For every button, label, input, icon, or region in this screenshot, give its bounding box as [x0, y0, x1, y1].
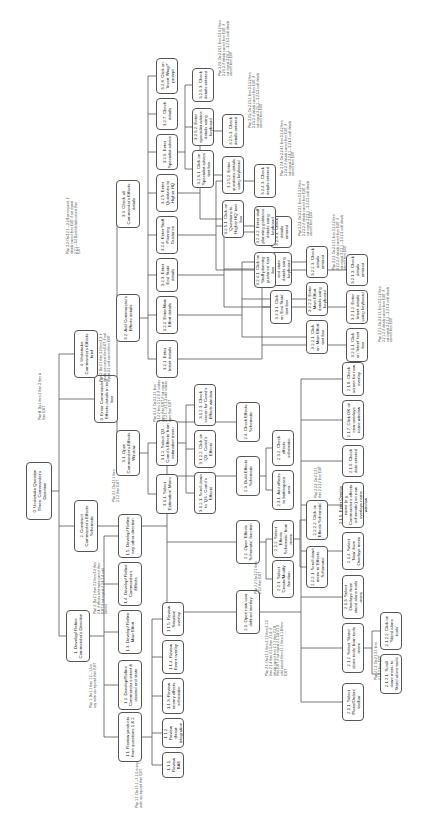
task-node-label: 1. Develop/ Refine Commander's Direction	[73, 612, 83, 660]
task-node-2-2-2-2: 2.2.2.2. Click on 'Effects Schematic'	[306, 500, 328, 540]
task-node-label: 1.1.4. Review Event overlay	[168, 642, 178, 672]
task-node-3-2-4: 3.2.4. Enter Staff Planning Guidance	[156, 216, 178, 254]
task-node-label: 3.2.5.3. Check details entered	[228, 116, 238, 146]
plan-annotation: Plan 2.1: Do 2.1.1 then 2.1.2 then 2.1.3…	[262, 620, 292, 676]
task-node-2-1-4: 2.1.4. Select 'New' from Overlays menu	[342, 532, 364, 570]
task-node-3-2-3-1: 3.2.3.1. Click on 'End State' text box	[270, 290, 292, 324]
task-node-label: 3.2.4.2. Enter staff planning guidance d…	[255, 208, 275, 244]
task-node-2-4: 2.4. Check Effects Schematic	[236, 402, 260, 442]
task-node-1-1-5: 1.1.5. Review Situation overlay	[162, 602, 184, 636]
task-node-label: 3.1.2. Select 'Q3 - Comd's Effects' from…	[160, 422, 175, 464]
plan-annotation: Plan 3.1.2: Do 3.1.2.1 then 3.1.2.2 then…	[152, 374, 174, 422]
task-node-3-2-4-3: 3.2.4.3. Check details entered	[254, 164, 276, 198]
task-node-label: 3.2.4. Enter Staff Planning Guidance	[160, 218, 175, 252]
task-node-3-2-1: 3.2.1. Enter Intent details	[156, 340, 178, 378]
task-node-2-3: 2.3. Build Effects Schematic	[236, 456, 260, 496]
task-node-3-2-3: 3.2.3. Enter End State details	[156, 258, 178, 292]
plan-annotation: Plan 2: Do 2.1 then 2.2 then 2.3 then 2.…	[92, 560, 112, 614]
task-node-label: 3.2.5.2. Enter questions details using k…	[226, 158, 241, 192]
task-node-label: 2.1.4. Select 'New' from Overlays menu	[346, 534, 361, 568]
task-node-label: 1.1.5. Review Situation overlay	[166, 604, 181, 634]
plan-annotation: Plan 3: Do 3.1 then 3.2 then 3.3; if det…	[96, 328, 116, 382]
task-node-3-1-2: 3.1.2. Select 'Q3 - Comd's Effects' from…	[156, 420, 178, 466]
task-node-label: 2.2.2.2. Click on 'Effects Schematic'	[312, 502, 322, 538]
task-node-label: 3.2.5. Enter Questions to Higher HQ	[160, 176, 175, 210]
task-node-1-3: 1.3. Develop/ Refine Main Effort	[118, 610, 142, 654]
task-node-3-1-2-2: 3.1.2.2. Click on 'Q3 - Comd's Effects'	[194, 430, 216, 468]
task-node-label: 3.2.2. Enter Main Effort details	[162, 298, 172, 332]
task-node-label: 1.5. Develop/ Refine any other direction	[125, 516, 135, 556]
task-node-label: 3.2.2.1. Click on 'Main Effort' text box	[310, 322, 325, 352]
task-node-1-1: 1.1. Review products from questions 1 & …	[118, 712, 142, 762]
task-node-1: 1. Develop/ Refine Commander's Direction	[66, 610, 90, 662]
task-node-2-2-2-1: 2.2.2.1. Scroll down menu to 'Effects Sc…	[306, 546, 328, 588]
task-node-4: 4. Undertake Commander's Effects brief	[74, 330, 98, 378]
task-node-3-2-2-1: 3.2.2.1. Click on 'Main Effort' text box	[306, 320, 328, 354]
task-node-2: 2. Construct Commander's Effects Schemat…	[74, 500, 98, 552]
task-node-label: 2.1.5. Enter Overlay name (e.g. Commande…	[338, 484, 368, 526]
task-node-1-4: 1.4. Develop/ Refine Commander's Effects	[118, 562, 142, 606]
task-node-label: 1.3. Develop/ Refine Main Effort	[125, 612, 135, 652]
task-node-3: 3. Enter Commander's Effects details in …	[94, 375, 118, 423]
task-node-3-2-1-2: 3.2.1.2. Enter Intent details using keyb…	[346, 290, 368, 324]
task-node-label: 2.1. Open new user defined overlay	[243, 592, 253, 632]
task-node-3-2-5-3: 3.2.5.3. Check details entered	[222, 114, 244, 148]
hta-diagram: 0. Undertake Question Three: Commander's…	[0, 0, 443, 814]
task-node-label: 3.2.8. Click on 'Insert Wrap?' prompt	[160, 60, 175, 92]
task-node-label: 2. Construct Commander's Effects Schemat…	[79, 502, 94, 550]
task-node-3-2-6-1: 3.2.6.1. Click on 'Specialist advice' te…	[192, 150, 214, 188]
task-node-2-1-3: 2.1.3. Select 'Overlays' from stand alon…	[342, 575, 364, 619]
task-node-label: 4. Undertake Commander's Effects brief	[79, 332, 94, 376]
task-node-3-2-1-1: 3.2.1.1. Click on 'Intent' text box	[346, 328, 368, 362]
task-node-2-2-1: 2.2.1. Select 'Create/Modify' function	[272, 560, 294, 598]
task-node-label: 3.2.3.1. Click on 'End State' text box	[274, 292, 289, 322]
plan-annotation: Plan 3.2.5: Do 3.2.5.1 then 3.2.5.2 then…	[246, 72, 268, 128]
task-node-3-3: 3.3. Check all Commander's Effects detai…	[116, 180, 140, 228]
plan-annotation: Plan 1.1: Do 1.1.1 – 1.1.5 in any order …	[132, 760, 148, 808]
plan-annotation: Plan 3.2.2: Do 3.2.2.1 then 3.2.2.2 then…	[330, 214, 352, 270]
task-node-label: 3.2.4.1. Click on 'Staff planning guidan…	[255, 254, 275, 286]
plan-annotation: Plan 0: Do 1 then 2 then 3 then 4 then E…	[36, 370, 50, 420]
task-node-label: 3.2. Add Commander's Effects details	[123, 296, 133, 340]
task-node-label: 2.1.3. Select 'Overlays' from stand alon…	[343, 577, 363, 617]
task-node-label: 2.3.2. Check effects schematic	[276, 432, 291, 464]
task-node-label: 2.3. Build Effects Schematic	[243, 458, 253, 494]
task-node-2-1-6: 2.1.6. Check date entered	[342, 445, 364, 477]
plan-annotation: Plan 2.1.2: Do 2.1.2.1 then 2.1.2.2 then…	[372, 640, 386, 680]
task-node-label: 3.2.2.2. Enter Main Effort details using…	[307, 284, 327, 314]
task-node-3-2-7: 3.2.7. Check details	[156, 98, 178, 130]
task-node-label: 3.2.7. Check details	[162, 100, 172, 128]
task-node-3-1-2-1: 3.1.2.1. Scroll down to 'Q3 - Comd's Eff…	[194, 472, 216, 514]
task-node-3-2-6: 3.2.6. Enter Specialist advice	[156, 134, 178, 170]
task-node-label: 1.4. Develop/ Refine Commander's Effects	[123, 564, 138, 604]
task-node-label: 3.2.2.3. Check details entered	[310, 248, 325, 276]
task-node-3-2-8: 3.2.8. Click on 'Insert Wrap?' prompt	[156, 58, 178, 94]
task-node-3-2-2-2: 3.2.2.2. Enter Main Effort details using…	[306, 282, 328, 316]
task-node-label: 0. Undertake Question Three: Commander's…	[32, 464, 47, 518]
task-node-2-1: 2.1. Open new user defined overlay	[236, 590, 260, 634]
task-node-3-1-1: 3.1.1. Select 'Estimation' Menu	[156, 474, 178, 514]
task-node-label: 2.3.1. Add effects to battlespace area	[276, 472, 291, 508]
plan-annotation: Plan 3.2.1: Do 3.2.1.1 then 3.2.1.2 then…	[376, 286, 398, 342]
task-node-label: 1.1. Review products from questions 1 & …	[125, 714, 135, 760]
task-node-3-1-2-3: 3.1.2.3. Check screen for Comd's Effects…	[194, 384, 216, 426]
task-node-2-1-2: 2.1.2. Select 'Stand alone tools' from t…	[342, 623, 364, 673]
task-node-3-2-2-3: 3.2.2.3. Check details entered	[306, 246, 328, 278]
task-node-3-2-6-2: 3.2.6.2. Enter specialist advice details…	[192, 108, 214, 146]
task-node-label: 2.2.2. Select 'Effects Schematic' from m…	[273, 522, 293, 556]
task-node-label: 2.1.1. Select 'Plans/Orders' toolbar	[346, 685, 361, 719]
task-node-label: 3.2.4.3. Check details entered	[260, 166, 270, 196]
task-node-label: 3.1.2.2. Click on 'Q3 - Comd's Effects'	[198, 432, 213, 466]
task-node-label: 3.2.3. Enter End State details	[160, 260, 175, 290]
plan-annotation: Plan 3.2.4: Do 3.2.4.1 then 3.2.4.2 then…	[278, 120, 300, 176]
task-node-label: 3.2.6.1. Click on 'Specialist advice' te…	[196, 152, 211, 186]
task-node-3-2-4-1: 3.2.4.1. Click on 'Staff planning guidan…	[254, 252, 276, 288]
task-node-label: 3.2.1.1. Click on 'Intent' text box	[350, 330, 365, 360]
task-node-label: 2.1.7. Click OK on new overlays name win…	[346, 402, 361, 438]
task-node-2-3-2: 2.3.2. Check effects schematic	[272, 430, 294, 466]
task-node-2-2-2: 2.2.2. Select 'Effects Schematic' from m…	[272, 520, 294, 558]
plan-annotation: Plan 3.2.6: Do 3.2.6.1 then 3.2.6.2 then…	[216, 20, 238, 76]
task-node-3-2: 3.2. Add Commander's Effects details	[116, 294, 140, 342]
task-node-2-1-1: 2.1.1. Select 'Plans/Orders' toolbar	[342, 683, 364, 721]
task-node-3-2-4-2: 3.2.4.2. Enter staff planning guidance d…	[254, 206, 276, 246]
